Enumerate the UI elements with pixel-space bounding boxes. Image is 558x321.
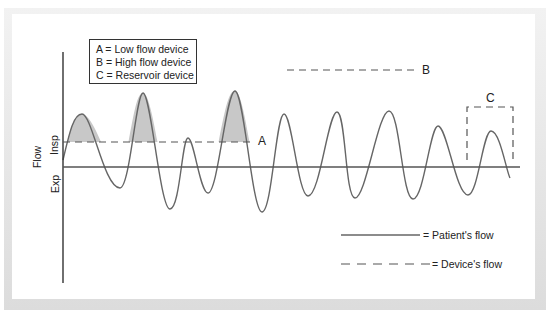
key-label-device-flow: = Device's flow xyxy=(432,258,502,270)
diagram-canvas xyxy=(0,0,558,321)
legend-item-b: B = High flow device xyxy=(96,56,196,69)
marker-label-c: C xyxy=(486,91,495,105)
legend-box: A = Low flow device B = High flow device… xyxy=(89,39,197,84)
marker-label-b: B xyxy=(422,63,430,77)
y-axis-label-exp: Exp xyxy=(49,175,61,193)
key-label-patient-flow: = Patient's flow xyxy=(423,229,494,241)
legend-item-c: C = Reservoir device xyxy=(96,69,196,82)
marker-label-a: A xyxy=(258,134,266,148)
legend-item-a: A = Low flow device xyxy=(96,43,196,56)
y-axis-label-insp: Insp xyxy=(48,135,60,155)
y-axis-label-flow: Flow xyxy=(31,146,43,168)
